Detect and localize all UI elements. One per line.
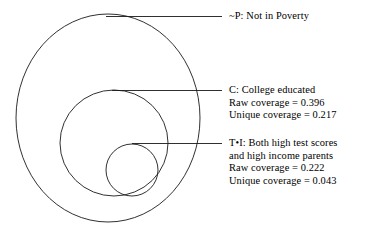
annotation-test-income-title: T•I: Both high test scores	[229, 137, 338, 150]
set-circle-test-income	[106, 144, 158, 196]
annotation-test-income-unique-coverage: Unique coverage = 0.043	[229, 175, 338, 188]
annotation-test-income-title-cont: and high income parents	[229, 150, 338, 163]
venn-diagram-figure: ~P: Not in Poverty C: College educated R…	[0, 0, 370, 233]
annotation-college-unique-coverage: Unique coverage = 0.217	[229, 109, 337, 122]
annotation-not-poverty-title: ~P: Not in Poverty	[229, 10, 309, 23]
annotation-college-raw-coverage: Raw coverage = 0.396	[229, 97, 337, 110]
annotation-college-title: C: College educated	[229, 84, 337, 97]
annotation-college: C: College educated Raw coverage = 0.396…	[229, 84, 337, 122]
set-circle-not-poverty	[16, 14, 200, 222]
annotation-test-income-raw-coverage: Raw coverage = 0.222	[229, 162, 338, 175]
annotation-test-income: T•I: Both high test scores and high inco…	[229, 137, 338, 187]
annotation-not-poverty: ~P: Not in Poverty	[229, 10, 309, 23]
